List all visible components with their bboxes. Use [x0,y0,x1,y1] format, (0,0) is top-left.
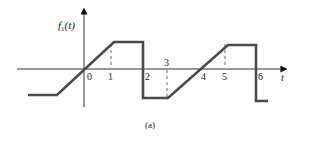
tick-label-6: 6 [258,71,263,82]
tick-label-3: 3 [164,57,169,68]
waveform-diagram: f1(t) 0 1 2 3 4 5 6 t (a) [0,0,310,145]
figure-caption: (a) [145,120,155,130]
tick-label-0: 0 [87,71,92,82]
tick-label-1: 1 [108,71,113,82]
tick-label-2: 2 [145,71,150,82]
y-axis-label: f1(t) [58,19,75,33]
x-axis-label: t [281,72,284,83]
tick-label-4: 4 [201,71,206,82]
tick-label-5: 5 [222,71,227,82]
